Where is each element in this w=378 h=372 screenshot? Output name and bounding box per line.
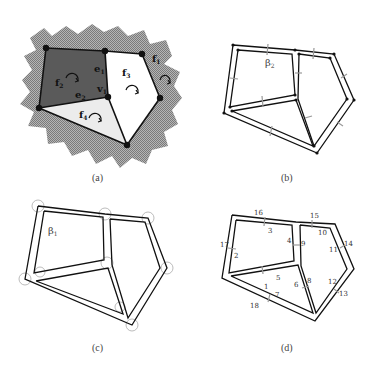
panel-b: β2 — [222, 43, 355, 154]
svg-text:12: 12 — [328, 278, 337, 286]
svg-text:3: 3 — [268, 227, 272, 235]
caption-b: (b) — [281, 172, 293, 183]
svg-text:10: 10 — [318, 229, 327, 237]
svg-text:11: 11 — [329, 246, 338, 254]
svg-text:5: 5 — [276, 274, 280, 282]
diagram-canvas: f2 f3 f1 f4 e1 e2 v1 — [0, 0, 378, 372]
panel-a: f2 f3 f1 f4 e1 e2 v1 — [20, 24, 182, 168]
svg-text:16: 16 — [254, 209, 263, 217]
svg-text:4: 4 — [287, 237, 292, 245]
panel-d: 1 2 3 4 5 6 7 8 9 10 11 12 13 14 15 16 1… — [220, 209, 354, 321]
caption-d: (d) — [281, 342, 293, 353]
svg-text:15: 15 — [310, 212, 319, 220]
svg-text:7: 7 — [275, 291, 279, 299]
svg-text:1: 1 — [264, 283, 268, 291]
caption-c: (c) — [92, 342, 103, 353]
svg-text:17: 17 — [220, 241, 229, 249]
label-beta2: β2 — [265, 57, 275, 69]
svg-text:14: 14 — [344, 240, 353, 248]
panel-c: β1 — [19, 200, 173, 331]
svg-text:13: 13 — [339, 290, 348, 298]
label-beta1: β1 — [48, 225, 58, 237]
caption-a: (a) — [92, 172, 103, 183]
svg-text:2: 2 — [234, 252, 238, 260]
svg-text:18: 18 — [250, 302, 259, 310]
svg-text:8: 8 — [307, 277, 311, 285]
svg-text:6: 6 — [294, 281, 299, 289]
svg-text:9: 9 — [301, 240, 305, 248]
boundary-outer — [224, 45, 354, 153]
